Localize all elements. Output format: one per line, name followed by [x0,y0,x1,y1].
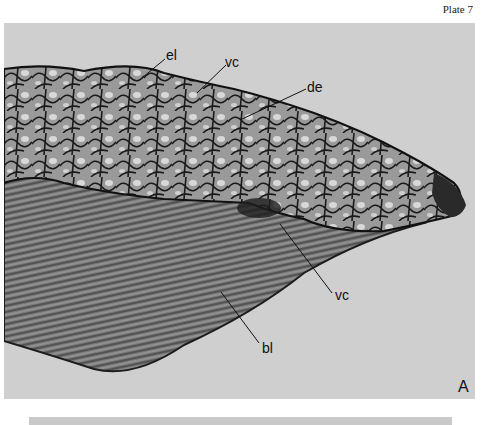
panel-letter: A [458,379,469,395]
next-panel-strip [29,417,452,425]
label-vc-upper: vc [225,55,239,69]
label-vc-lower: vc [335,288,349,302]
label-de: de [307,80,323,94]
label-bl: bl [262,341,273,355]
micrograph-panel-a: el vc de vc bl A [4,23,475,399]
plate-number: Plate 7 [443,3,473,15]
specimen-section-image [4,23,475,399]
label-el: el [166,48,177,62]
